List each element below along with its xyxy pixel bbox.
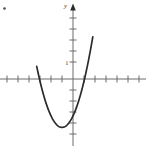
- corner-speck-icon: [3, 7, 6, 10]
- y-tick-label-one: 1: [65, 59, 68, 66]
- coordinate-plane-svg: y 1: [0, 0, 146, 146]
- graph-figure: y 1: [0, 0, 146, 146]
